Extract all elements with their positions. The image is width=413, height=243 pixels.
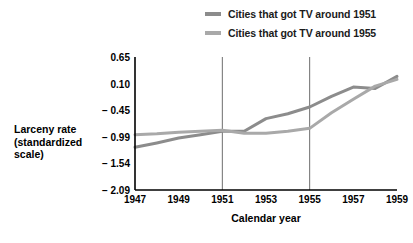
y-axis-title-line-2: (standardized (14, 136, 106, 149)
y-axis-tick-labels: 0.650.10− 0.45− 0.99− 1.54− 2.09 (100, 57, 130, 190)
legend-swatch-1955 (205, 31, 221, 35)
y-tick-label: − 0.45 (102, 105, 130, 116)
x-tick-label: 1949 (168, 194, 190, 205)
y-tick-label: 0.65 (111, 52, 130, 63)
legend-label-1951: Cities that got TV around 1951 (228, 8, 376, 20)
plot-svg (135, 57, 397, 190)
y-tick-label: − 1.54 (102, 158, 130, 169)
legend-item-1955: Cities that got TV around 1955 (205, 25, 376, 41)
x-tick-label: 1947 (124, 194, 146, 205)
x-axis-title: Calendar year (135, 212, 397, 224)
y-tick-label: − 0.99 (102, 131, 130, 142)
y-axis-title: Larceny rate (standardized scale) (14, 123, 106, 161)
legend-item-1951: Cities that got TV around 1951 (205, 6, 376, 22)
x-tick-label: 1959 (386, 194, 408, 205)
chart-legend: Cities that got TV around 1951 Cities th… (205, 6, 376, 44)
y-axis-title-line-1: Larceny rate (14, 123, 106, 136)
x-tick-label: 1951 (211, 194, 233, 205)
x-tick-label: 1955 (299, 194, 321, 205)
legend-label-1955: Cities that got TV around 1955 (228, 27, 376, 39)
plot-area (135, 57, 397, 190)
y-tick-label: 0.10 (111, 78, 130, 89)
y-axis-title-line-3: scale) (14, 148, 106, 161)
larceny-rate-line-chart: Cities that got TV around 1951 Cities th… (0, 0, 413, 243)
x-tick-label: 1957 (342, 194, 364, 205)
series-line-1951 (135, 76, 397, 147)
legend-swatch-1951 (205, 12, 221, 16)
x-tick-label: 1953 (255, 194, 277, 205)
x-axis-tick-labels: 1947194919511953195519571959 (135, 194, 397, 208)
